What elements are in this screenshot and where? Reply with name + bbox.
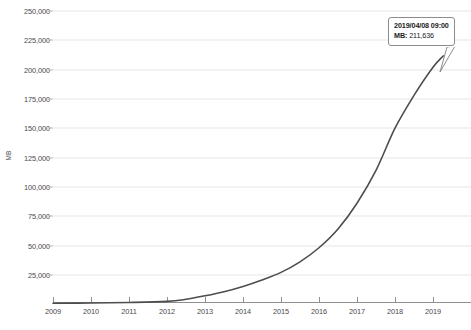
x-tick-label: 2016	[311, 307, 327, 316]
tooltip-value-label: MB:	[394, 31, 407, 40]
gridlines	[53, 11, 471, 275]
x-tick-label: 2018	[387, 307, 403, 316]
tooltip-pointer	[440, 46, 455, 72]
tooltip-date: 2019/04/08 09:00	[394, 21, 449, 31]
hover-tooltip: 2019/04/08 09:00 MB: 211,636	[388, 17, 455, 46]
chart-container: MB 25,000 50,000 75,000 100,000 125,000 …	[0, 0, 471, 330]
y-axis-ticks	[48, 11, 53, 275]
x-tick-label: 2011	[121, 307, 137, 316]
data-series-line	[53, 56, 443, 303]
x-tick-label: 2009	[45, 307, 61, 316]
x-tick-label: 2015	[273, 307, 289, 316]
x-tick-label: 2019	[425, 307, 441, 316]
x-tick-label: 2017	[349, 307, 365, 316]
x-tick-label: 2012	[159, 307, 175, 316]
tooltip-value-number: 211,636	[409, 31, 434, 40]
plot-area	[0, 0, 471, 330]
x-axis-ticks	[54, 297, 434, 303]
x-tick-label: 2014	[235, 307, 251, 316]
x-tick-label: 2013	[197, 307, 213, 316]
x-tick-label: 2010	[83, 307, 99, 316]
tooltip-value: MB: 211,636	[394, 31, 449, 41]
